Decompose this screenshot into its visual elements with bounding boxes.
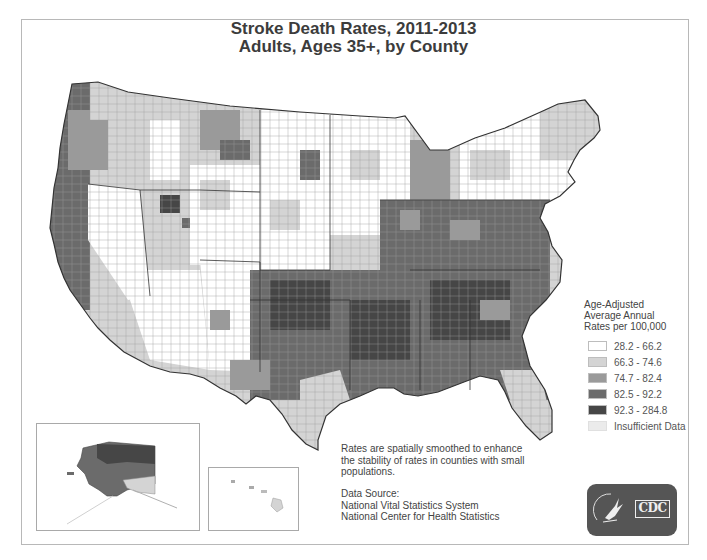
legend-title-line: Rates per 100,000 (584, 321, 694, 332)
map-legend: Age-Adjusted Average Annual Rates per 10… (584, 299, 694, 434)
source-line: Data Source: (341, 488, 571, 500)
legend-item: 74.7 - 82.4 (584, 370, 694, 386)
legend-item: 66.3 - 74.6 (584, 354, 694, 370)
alaska-inset (36, 423, 200, 531)
legend-title-line: Age-Adjusted (584, 299, 694, 310)
legend-swatch (588, 405, 607, 415)
hhs-eagle-icon (587, 484, 633, 536)
legend-swatch (588, 357, 607, 367)
legend-item: 28.2 - 66.2 (584, 338, 694, 354)
note-line: Rates are spatially smoothed to enhance (341, 443, 571, 455)
legend-label: 74.7 - 82.4 (614, 373, 662, 384)
data-source: Data Source: National Vital Statistics S… (341, 488, 571, 523)
alaska-map (37, 424, 199, 530)
cdc-wordmark: CDC (635, 500, 670, 518)
legend-title-line: Average Annual (584, 310, 694, 321)
legend-item: Insufficient Data (584, 418, 694, 434)
smoothing-note: Rates are spatially smoothed to enhance … (341, 443, 571, 478)
legend-item: 82.5 - 92.2 (584, 386, 694, 402)
note-line: the stability of rates in counties with … (341, 455, 571, 467)
legend-label: 66.3 - 74.6 (614, 357, 662, 368)
legend-label: Insufficient Data (614, 421, 686, 432)
legend-label: 82.5 - 92.2 (614, 389, 662, 400)
legend-swatch (588, 421, 607, 431)
source-line: National Center for Health Statistics (341, 511, 571, 523)
legend-item: 92.3 - 284.8 (584, 402, 694, 418)
hawaii-inset (208, 467, 299, 531)
note-line: populations. (341, 466, 571, 478)
legend-swatch (588, 373, 607, 383)
hawaii-map (209, 468, 298, 530)
source-line: National Vital Statistics System (341, 500, 571, 512)
legend-label: 28.2 - 66.2 (614, 341, 662, 352)
legend-swatch (588, 389, 607, 399)
legend-label: 92.3 - 284.8 (614, 405, 667, 416)
legend-swatch (588, 341, 607, 351)
